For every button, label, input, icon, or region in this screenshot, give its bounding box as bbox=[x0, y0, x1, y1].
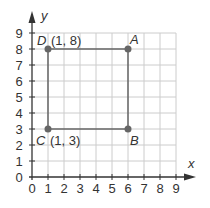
rectangle-abcd bbox=[48, 49, 128, 129]
y-tick: 9 bbox=[15, 26, 22, 41]
label-c-coord: (1, 3) bbox=[50, 133, 80, 148]
y-tick: 8 bbox=[15, 42, 22, 57]
y-axis-arrow-icon bbox=[29, 11, 36, 23]
point-b bbox=[125, 126, 132, 133]
x-tick: 8 bbox=[156, 181, 163, 196]
x-tick: 2 bbox=[60, 181, 67, 196]
y-tick: 2 bbox=[15, 138, 22, 153]
coordinate-grid: 0 1 2 3 4 5 6 7 8 9 0 1 2 3 4 5 6 7 8 9 … bbox=[0, 0, 210, 208]
y-tick: 5 bbox=[15, 90, 22, 105]
x-tick: 9 bbox=[172, 181, 179, 196]
x-axis-label: x bbox=[187, 156, 195, 171]
x-tick: 4 bbox=[92, 181, 99, 196]
y-tick: 4 bbox=[15, 106, 22, 121]
label-a: A bbox=[129, 32, 139, 47]
x-tick: 7 bbox=[140, 181, 147, 196]
label-d-coord: (1, 8) bbox=[51, 33, 81, 48]
x-axis-arrow-icon bbox=[184, 174, 196, 181]
tick-marks bbox=[29, 33, 176, 180]
x-tick: 3 bbox=[76, 181, 83, 196]
point-c bbox=[45, 126, 52, 133]
y-tick: 7 bbox=[15, 58, 22, 73]
grid-lines bbox=[32, 33, 176, 177]
y-tick: 1 bbox=[15, 154, 22, 169]
x-tick: 1 bbox=[44, 181, 51, 196]
y-tick: 3 bbox=[15, 122, 22, 137]
label-d: D bbox=[37, 33, 46, 48]
y-axis-label: y bbox=[40, 8, 49, 23]
y-tick: 6 bbox=[15, 74, 22, 89]
y-tick: 0 bbox=[15, 170, 22, 185]
x-tick: 5 bbox=[108, 181, 115, 196]
x-tick: 0 bbox=[28, 181, 35, 196]
x-tick-labels: 0 1 2 3 4 5 6 7 8 9 bbox=[28, 181, 179, 196]
x-tick: 6 bbox=[124, 181, 131, 196]
label-b: B bbox=[130, 133, 139, 148]
y-tick-labels: 0 1 2 3 4 5 6 7 8 9 bbox=[15, 26, 22, 185]
label-c: C bbox=[36, 133, 46, 148]
